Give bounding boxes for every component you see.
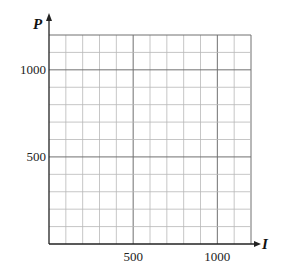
- y-tick-label: 1000: [20, 62, 46, 77]
- tick-labels: 50010005001000: [20, 62, 230, 264]
- x-axis-label: I: [261, 236, 269, 252]
- y-axis-label: P: [33, 16, 43, 32]
- x-axis-arrow-icon: [254, 241, 261, 247]
- blank-graph-grid: 50010005001000 I P: [0, 0, 283, 271]
- axes: [46, 13, 261, 247]
- y-tick-label: 500: [27, 149, 47, 164]
- y-axis-arrow-icon: [46, 13, 52, 21]
- grid-lines: [49, 35, 251, 244]
- x-tick-label: 500: [123, 249, 143, 264]
- x-tick-label: 1000: [204, 249, 230, 264]
